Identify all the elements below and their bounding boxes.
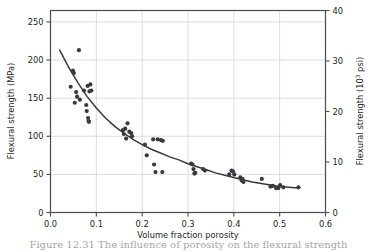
data-point [122, 132, 126, 136]
data-point [281, 185, 285, 189]
y-tick-label: 150 [28, 93, 44, 103]
data-point [153, 170, 157, 174]
data-point [124, 136, 128, 140]
data-point [161, 139, 165, 143]
figure-caption: Figure 12.31 The influence of porosity o… [0, 238, 377, 251]
data-point [160, 170, 164, 174]
figure-container: 050100150200250 010203040 0.00.10.20.30.… [0, 0, 377, 252]
y2-tick-label: 40 [333, 6, 344, 16]
data-point [232, 172, 236, 176]
data-point [82, 88, 86, 92]
data-point [88, 82, 92, 86]
data-point [78, 98, 82, 102]
x-tick-label: 0.3 [181, 219, 194, 229]
data-point [260, 177, 264, 181]
y2-tick-label: 30 [333, 56, 344, 66]
data-point [72, 71, 76, 75]
y2-axis-title-tail: psi) [355, 57, 365, 75]
data-point [191, 167, 195, 171]
data-point [123, 127, 127, 131]
data-point [125, 121, 129, 125]
y2-axis-title: Flexural strength (103 psi) [355, 57, 365, 166]
x-tick-label: 0.1 [90, 219, 103, 229]
data-point [190, 162, 194, 166]
data-point [296, 185, 300, 189]
x-tick-label: 0.5 [273, 219, 286, 229]
y2-axis-title-group: Flexural strength (103 psi) [355, 57, 365, 166]
data-point [84, 103, 88, 107]
data-point [85, 109, 89, 113]
y-tick-label: 250 [28, 17, 44, 27]
data-point [143, 143, 147, 147]
data-point [89, 88, 93, 92]
x-tick-label: 0.2 [136, 219, 149, 229]
data-point [87, 120, 91, 124]
data-point [193, 171, 197, 175]
data-point [151, 137, 155, 141]
y-tick-label: 100 [28, 131, 44, 141]
y-tick-label: 0 [38, 208, 43, 218]
data-point [69, 85, 73, 89]
data-point [74, 90, 78, 94]
data-point [77, 48, 81, 52]
y-tick-label: 50 [33, 169, 44, 179]
data-point [145, 153, 149, 157]
x-tick-label: 0.6 [319, 219, 332, 229]
y-tick-label: 200 [28, 55, 44, 65]
data-point [152, 162, 156, 166]
y2-axis-title-main: Flexural strength (10 [355, 78, 365, 165]
data-point [227, 172, 231, 176]
y2-tick-label: 0 [333, 208, 338, 218]
y-axis-title: Flexural strength (MPa) [6, 63, 16, 160]
x-tick-label: 0.0 [44, 219, 57, 229]
data-point [203, 168, 207, 172]
y2-tick-label: 20 [333, 107, 344, 117]
flexural-strength-vs-porosity-chart: 050100150200250 010203040 0.00.10.20.30.… [0, 0, 377, 252]
data-point [241, 180, 245, 184]
x-tick-label: 0.4 [227, 219, 240, 229]
y2-tick-label: 10 [333, 157, 344, 167]
data-point [130, 134, 134, 138]
data-point [73, 101, 77, 105]
